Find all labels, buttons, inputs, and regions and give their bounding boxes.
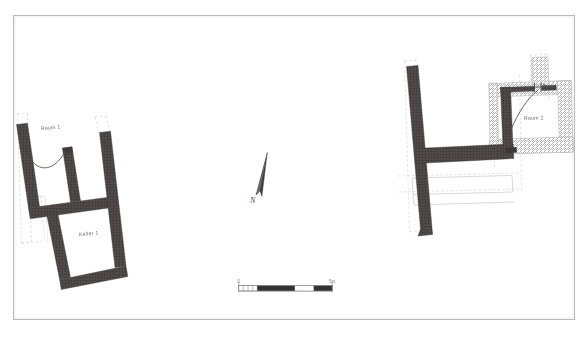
scale-bar-label-end: 5m bbox=[329, 279, 336, 284]
scale-bar-label-start: 0 bbox=[237, 279, 240, 284]
east-threshold-block bbox=[505, 147, 517, 153]
scale-bar-segment-dark-2 bbox=[314, 286, 333, 292]
plan-canvas: Raum 1 Keller 1 bbox=[0, 0, 587, 340]
east-wall-raum2-north-b bbox=[542, 85, 557, 90]
east-hatch-chimney bbox=[532, 57, 549, 85]
scale-bar-segment-dark-1 bbox=[257, 286, 295, 292]
label-raum-2: Raum 2 bbox=[524, 114, 544, 121]
north-arrow-label: N bbox=[249, 196, 256, 205]
scale-bar-segment-light-1 bbox=[295, 286, 314, 292]
site-plan-drawing: Raum 1 Keller 1 bbox=[0, 0, 587, 340]
east-hatch-west bbox=[489, 83, 499, 154]
east-wall-raum2-north bbox=[501, 86, 535, 92]
